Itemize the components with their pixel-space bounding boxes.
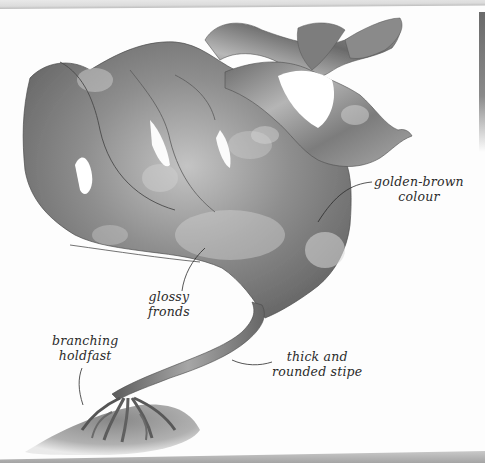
label-line: holdfast — [52, 348, 118, 363]
label-line: colour — [374, 189, 464, 204]
label-line: golden-brown — [374, 174, 464, 189]
kelp-illustration — [0, 0, 485, 463]
label-line: rounded stipe — [272, 364, 362, 379]
label-glossy-fronds: glossy fronds — [148, 289, 190, 319]
label-line: glossy — [148, 289, 190, 304]
label-thick-rounded-stipe: thick and rounded stipe — [272, 349, 362, 379]
book-page: golden-brown colour glossy fronds branch… — [0, 0, 485, 463]
label-branching-holdfast: branching holdfast — [52, 333, 118, 363]
label-golden-brown-colour: golden-brown colour — [374, 174, 464, 204]
label-line: fronds — [148, 304, 190, 319]
holdfast — [25, 398, 200, 455]
leader-holdfast — [79, 368, 83, 405]
leader-stipe — [232, 360, 272, 365]
label-line: thick and — [272, 349, 362, 364]
label-line: branching — [52, 333, 118, 348]
